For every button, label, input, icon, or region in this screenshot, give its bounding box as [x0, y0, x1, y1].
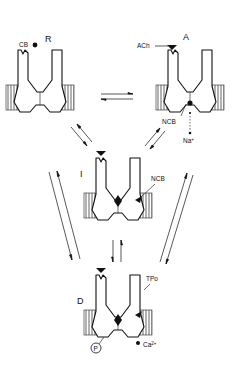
ach-ligand-icon [167, 45, 177, 50]
ca-ion-icon [136, 341, 140, 345]
state-i: I NCB [80, 151, 165, 220]
arrow-r-a [101, 93, 133, 101]
arrow-a-i [145, 128, 165, 149]
state-d: D TPo P Ca2+ [77, 268, 158, 353]
tpo-label: TPo [146, 275, 158, 282]
state-d-label: D [77, 296, 84, 306]
ach-label: ACh [137, 42, 150, 49]
state-i-label: I [80, 169, 83, 179]
ca-label: Ca2+ [143, 341, 157, 349]
ach-bound-icon-d [96, 268, 106, 273]
arrow-r-d [49, 171, 80, 260]
cb-ligand-icon [33, 43, 38, 48]
ncb-label-a: NCB [162, 118, 176, 125]
state-r: R CB [6, 34, 74, 112]
arrow-i-d [112, 240, 123, 262]
state-r-label: R [45, 34, 52, 44]
arrow-r-i [71, 124, 92, 146]
arrow-a-d [160, 173, 193, 264]
state-a: A ACh NCB Na+ [137, 32, 224, 144]
ach-bound-icon-i [96, 151, 106, 156]
na-label: Na+ [183, 137, 194, 145]
ncb-blocker-icon [187, 100, 192, 105]
cb-label: CB [19, 41, 28, 48]
na-ion-icon [189, 132, 192, 135]
phospho-label: P [94, 345, 98, 352]
state-a-label: A [183, 32, 189, 42]
ncb-label-i: NCB [151, 175, 165, 182]
channel-state-diagram: R CB A ACh NCB Na+ I NCB D [0, 0, 235, 367]
